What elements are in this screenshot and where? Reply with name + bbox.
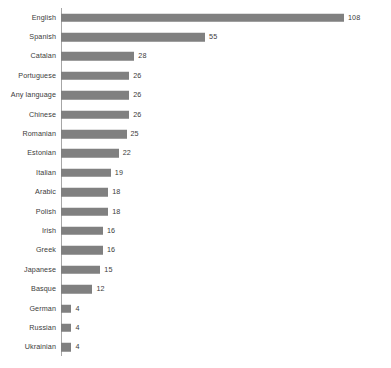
bar-row: Chinese26 (61, 105, 391, 124)
category-label: Spanish (29, 33, 56, 40)
category-label: Any language (11, 92, 56, 99)
category-label: English (32, 14, 56, 21)
bar-row: Italian19 (61, 163, 391, 182)
bar-value-label: 4 (75, 344, 79, 351)
bar-row: Greek16 (61, 241, 391, 260)
bar (61, 13, 344, 22)
bar-row: Portuguese26 (61, 66, 391, 85)
bar-value-label: 25 (131, 130, 139, 137)
bar-value-label: 108 (348, 14, 360, 21)
bar (61, 324, 71, 333)
bar-row: Estonian22 (61, 144, 391, 163)
bar (61, 343, 71, 352)
bar-value-label: 4 (75, 305, 79, 312)
bar-value-label: 26 (133, 92, 141, 99)
category-label: Romanian (22, 130, 56, 137)
bar-row: Polish18 (61, 202, 391, 221)
category-label: Russian (29, 324, 56, 331)
category-label: Japanese (24, 266, 56, 273)
bar-value-label: 28 (138, 53, 146, 60)
plot-area: English108Spanish55Catalan28Portuguese26… (61, 8, 391, 358)
bar (61, 72, 129, 81)
bar (61, 91, 129, 100)
bar-rows: English108Spanish55Catalan28Portuguese26… (61, 8, 391, 357)
bar-row: Irish16 (61, 221, 391, 240)
bar-row: Basque12 (61, 279, 391, 298)
bar (61, 149, 119, 158)
bar-row: Japanese15 (61, 260, 391, 279)
bar-row: Ukrainian4 (61, 338, 391, 357)
bar-value-label: 12 (96, 286, 104, 293)
category-label: Irish (42, 227, 56, 234)
category-label: Catalan (31, 53, 56, 60)
category-label: Portuguese (18, 72, 56, 79)
bar-chart: English108Spanish55Catalan28Portuguese26… (0, 0, 391, 368)
bar (61, 188, 108, 197)
bar-value-label: 18 (112, 189, 120, 196)
category-label: Italian (36, 169, 56, 176)
bar (61, 246, 103, 255)
bar-row: Any language26 (61, 86, 391, 105)
bar-value-label: 22 (123, 150, 131, 157)
bar-value-label: 16 (107, 247, 115, 254)
bar (61, 266, 100, 275)
bar-value-label: 26 (133, 111, 141, 118)
bar-value-label: 18 (112, 208, 120, 215)
bar-row: Arabic18 (61, 183, 391, 202)
bar (61, 304, 71, 313)
bar (61, 285, 92, 294)
bar-row: Romanian25 (61, 124, 391, 143)
category-label: Ukrainian (25, 344, 56, 351)
bar-value-label: 15 (104, 266, 112, 273)
bar (61, 207, 108, 216)
bar-value-label: 4 (75, 324, 79, 331)
bar-value-label: 16 (107, 227, 115, 234)
bar-row: Catalan28 (61, 47, 391, 66)
bar (61, 110, 129, 119)
bar (61, 130, 127, 139)
bar (61, 227, 103, 236)
category-label: Estonian (27, 150, 56, 157)
category-label: German (29, 305, 56, 312)
category-label: Chinese (29, 111, 56, 118)
bar (61, 169, 111, 178)
bar-row: Russian4 (61, 318, 391, 337)
bar-row: English108 (61, 8, 391, 27)
bar-row: Spanish55 (61, 27, 391, 46)
bar (61, 52, 134, 61)
category-label: Greek (36, 247, 56, 254)
category-label: Arabic (35, 189, 56, 196)
bar-value-label: 26 (133, 72, 141, 79)
category-label: Polish (36, 208, 56, 215)
bar-row: German4 (61, 299, 391, 318)
bar (61, 33, 205, 42)
bar-value-label: 19 (115, 169, 123, 176)
bar-value-label: 55 (209, 33, 217, 40)
category-label: Basque (31, 286, 56, 293)
